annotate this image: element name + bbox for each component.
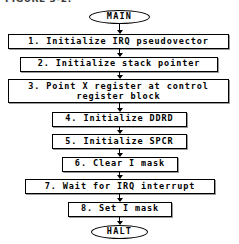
node-step8: 8. Set I mask	[68, 202, 172, 217]
node-start-main: MAIN	[89, 10, 150, 24]
node-step6: 6. Clear I mask	[62, 157, 178, 172]
node-step1: 1. Initialize IRQ pseudovector	[8, 34, 229, 49]
node-step7: 7. Wait for IRQ interrupt	[25, 179, 215, 194]
flowchart-diagram: FIGURE 3-2. MAIN 1. Initialize IRQ pseud…	[0, 0, 239, 244]
node-step4: 4. Initialize DDRD	[52, 112, 187, 127]
node-end-halt: HALT	[91, 225, 148, 239]
node-step3: 3. Point X register at control register …	[8, 79, 229, 103]
node-step2: 2. Initialize stack pointer	[20, 57, 218, 72]
node-step5: 5. Initialize SPCR	[52, 134, 187, 149]
figure-title: FIGURE 3-2.	[5, 0, 72, 4]
